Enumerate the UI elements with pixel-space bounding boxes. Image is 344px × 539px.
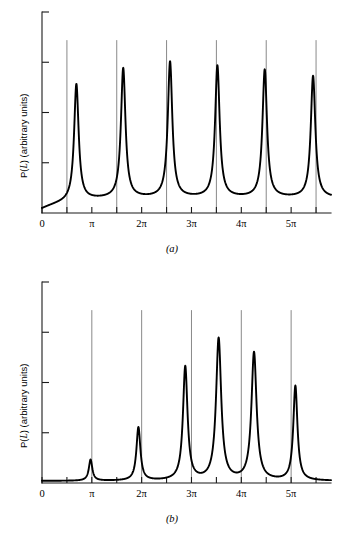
figure-panel-b: P(L) (arbitrary units) 0π2π3π4π5πk L (b) xyxy=(0,270,344,539)
data-curve-b xyxy=(42,337,331,480)
panel-caption-b: (b) xyxy=(0,513,344,524)
x-tick-label-a-1: π xyxy=(89,218,95,229)
figure-panel-a: P(L) (arbitrary units) 0π2π3π4π5πk L (a) xyxy=(0,0,344,270)
x-tick-label-b-0: 0 xyxy=(39,488,44,499)
x-tick-label-a-2: 2π xyxy=(136,218,147,229)
x-tick-label-b-5: 5π xyxy=(286,488,297,499)
panel-caption-a: (a) xyxy=(0,243,344,254)
y-axis-label-panel-b: P(L) (arbitrary units) xyxy=(18,364,29,448)
plot-area-panel-a: 0π2π3π4π5πk L xyxy=(0,0,344,235)
x-tick-label-a-5: 5π xyxy=(286,218,297,229)
x-tick-label-a-3: 3π xyxy=(186,218,197,229)
y-axis-label-text-a: P(L) (arbitrary units) xyxy=(18,94,29,178)
data-curve-a xyxy=(42,61,331,208)
x-tick-label-a-0: 0 xyxy=(39,218,44,229)
x-tick-label-b-2: 2π xyxy=(136,488,147,499)
x-tick-label-b-4: 4π xyxy=(236,488,247,499)
plot-area-panel-b: 0π2π3π4π5πk L xyxy=(0,270,344,505)
x-tick-label-a-4: 4π xyxy=(236,218,247,229)
y-axis-label-text-b: P(L) (arbitrary units) xyxy=(18,364,29,448)
x-tick-label-b-1: π xyxy=(89,488,95,499)
x-tick-label-b-3: 3π xyxy=(186,488,197,499)
y-axis-label-panel-a: P(L) (arbitrary units) xyxy=(18,94,29,178)
